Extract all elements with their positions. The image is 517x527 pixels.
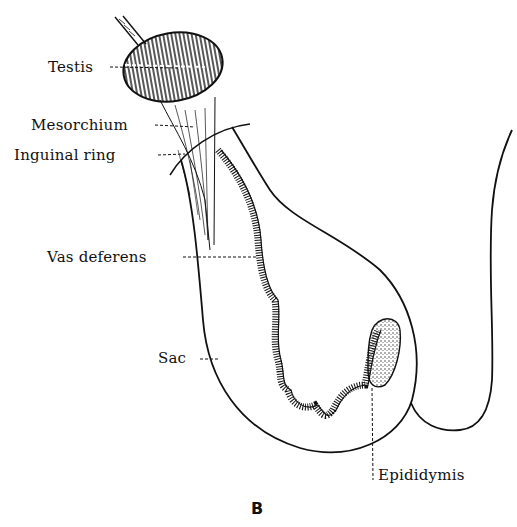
right-outline <box>411 130 512 430</box>
epididymis-shape <box>368 319 400 387</box>
label-testis: Testis <box>48 60 93 75</box>
panel-letter: B <box>251 501 263 517</box>
label-epididymis: Epididymis <box>378 468 465 483</box>
leader-lines <box>110 67 373 480</box>
label-mesorchium: Mesorchium <box>31 118 128 133</box>
label-sac: Sac <box>158 351 186 366</box>
label-inguinal-ring: Inguinal ring <box>14 148 116 163</box>
mesorchium-shape <box>160 97 215 250</box>
spermatic-cord <box>115 16 146 45</box>
testis-shape <box>118 25 228 109</box>
label-vas-deferens: Vas deferens <box>47 250 147 265</box>
vas-deferens-shape <box>218 150 381 415</box>
